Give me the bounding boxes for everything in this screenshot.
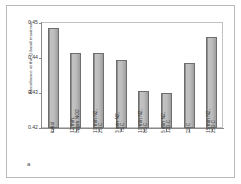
x-axis-tick-label: 5 min N2,120 C <box>161 112 172 133</box>
panel-letter: a <box>27 161 30 167</box>
y-axis-tick-label: 0.44 <box>28 55 38 60</box>
y-axis-tick-labels: 0.420.430.440.45 <box>22 22 38 128</box>
y-axis-tick-label: 0.45 <box>28 20 38 25</box>
bar-chart: Absorbance at the Q-band maximum 0.420.4… <box>10 9 231 174</box>
bar <box>184 63 195 128</box>
x-axis-tick-label: initial <box>50 122 55 133</box>
x-axis-tick-label: 15 min N2,200 C <box>206 109 217 133</box>
x-axis-tick-label: 12 min,5ppm NO2 <box>70 109 81 133</box>
figure-root: Absorbance at the Q-band maximum 0.420.4… <box>0 0 241 184</box>
x-axis-tick-label: 20 C <box>186 123 191 133</box>
x-axis-tick-label: 3 min N2,75 C <box>115 112 126 133</box>
y-axis-tick-label: 0.43 <box>28 90 38 95</box>
x-axis-tick-labels: initial12 min,5ppm NO210 min N2,20 C3 mi… <box>42 133 223 184</box>
y-axis-tick-label: 0.42 <box>28 125 38 130</box>
x-axis-tick-label: 10 min N2,80 C <box>138 109 149 133</box>
bar <box>48 28 59 128</box>
x-axis-tick-label: 10 min N2,20 C <box>93 109 104 133</box>
